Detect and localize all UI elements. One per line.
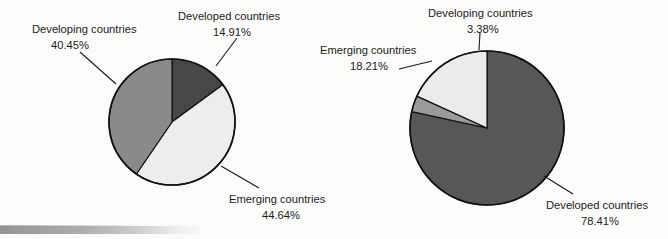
left-label-emerging-title: Emerging countries xyxy=(229,193,326,205)
left-label-developing-value: 40.45% xyxy=(51,39,89,51)
scan-artifact-bar xyxy=(0,226,205,234)
right-label-developing-value: 3.38% xyxy=(467,23,499,35)
left-leader-emerging xyxy=(221,166,259,188)
right-label-emerging-value: 18.21% xyxy=(350,60,388,72)
right-label-developed-title: Developed countries xyxy=(546,199,648,211)
left-leader-developing xyxy=(80,52,116,84)
right-label-developed-value: 78.41% xyxy=(581,215,619,227)
left-leader-developed xyxy=(216,38,237,66)
right-label-emerging-title: Emerging countries xyxy=(320,44,417,56)
left-pie-chart xyxy=(109,59,235,185)
right-leader-developing xyxy=(479,33,480,50)
right-label-developing-title: Developing countries xyxy=(428,7,533,19)
left-label-developed-title: Developed countries xyxy=(178,10,280,22)
right-leader-developed xyxy=(544,176,573,194)
left-label-developing-title: Developing countries xyxy=(32,23,137,35)
left-label-emerging-value: 44.64% xyxy=(262,209,300,221)
right-leader-emerging xyxy=(399,61,432,69)
figure-pie-charts: Developing countries 40.45% Developed co… xyxy=(0,0,668,239)
pie-charts-svg: Developing countries 40.45% Developed co… xyxy=(0,0,668,239)
left-label-developed-value: 14.91% xyxy=(213,26,251,38)
right-pie-chart xyxy=(410,51,564,205)
